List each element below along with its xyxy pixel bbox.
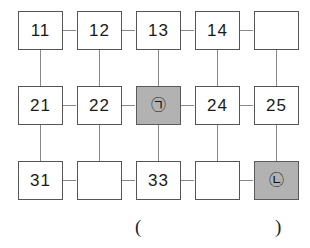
grid-cell-label: 12 xyxy=(89,22,110,39)
connector-r2-c4-c5 xyxy=(239,105,253,106)
grid-cell-r1c3[interactable]: 13 xyxy=(136,11,181,50)
circled-giyeok-icon: ㉠ xyxy=(151,98,166,113)
grid-cell-r3c1[interactable]: 31 xyxy=(18,161,63,200)
connector-c3-r1-r2 xyxy=(158,50,159,86)
grid-cell-r2c5[interactable]: 25 xyxy=(254,86,299,125)
connector-c2-r2-r3 xyxy=(99,125,100,161)
grid-cell-label: 13 xyxy=(148,22,169,39)
grid-cell-r3c5-marker-nieun[interactable]: ㉡ xyxy=(254,161,299,200)
connector-r1-c1-c2 xyxy=(62,30,76,31)
grid-cell-label: 11 xyxy=(31,22,51,39)
connector-r3-c1-c2 xyxy=(62,180,76,181)
circled-nieun-icon: ㉡ xyxy=(269,173,284,188)
grid-cell-r1c2[interactable]: 12 xyxy=(77,11,122,50)
grid-cell-r2c4[interactable]: 24 xyxy=(195,86,240,125)
connector-r1-c3-c4 xyxy=(180,30,194,31)
connector-c1-r2-r3 xyxy=(40,125,41,161)
connector-r1-c4-c5 xyxy=(239,30,253,31)
grid-cell-r1c4[interactable]: 14 xyxy=(195,11,240,50)
grid-cell-label: 33 xyxy=(148,172,169,189)
connector-r1-c2-c3 xyxy=(121,30,135,31)
connector-c4-r2-r3 xyxy=(217,125,218,161)
grid-cell-label: 24 xyxy=(207,97,228,114)
grid-cell-label: 25 xyxy=(266,97,287,114)
grid-cell-r3c3[interactable]: 33 xyxy=(136,161,181,200)
connector-c1-r1-r2 xyxy=(40,50,41,86)
grid-cell-r1c5[interactable] xyxy=(254,11,299,50)
grid-cell-r3c4[interactable] xyxy=(195,161,240,200)
connector-r3-c4-c5 xyxy=(239,180,253,181)
grid-diagram: 11 12 13 14 21 22 ㉠ 24 25 31 33 ㉡ ( ) xyxy=(0,0,310,248)
grid-cell-r3c2[interactable] xyxy=(77,161,122,200)
connector-r2-c3-c4 xyxy=(180,105,194,106)
caption-open-paren: ( xyxy=(135,217,141,236)
connector-c5-r1-r2 xyxy=(276,50,277,86)
grid-cell-r1c1[interactable]: 11 xyxy=(18,11,63,50)
connector-c3-r2-r3 xyxy=(158,125,159,161)
grid-cell-r2c2[interactable]: 22 xyxy=(77,86,122,125)
connector-c5-r2-r3 xyxy=(276,125,277,161)
grid-cell-r2c3-marker-giyeok[interactable]: ㉠ xyxy=(136,86,181,125)
caption-close-paren: ) xyxy=(275,217,281,236)
grid-cell-label: 21 xyxy=(30,97,51,114)
grid-cell-label: 14 xyxy=(207,22,228,39)
connector-r3-c2-c3 xyxy=(121,180,135,181)
connector-c2-r1-r2 xyxy=(99,50,100,86)
connector-r3-c3-c4 xyxy=(180,180,194,181)
grid-cell-label: 22 xyxy=(89,97,110,114)
connector-c4-r1-r2 xyxy=(217,50,218,86)
grid-cell-r2c1[interactable]: 21 xyxy=(18,86,63,125)
connector-r2-c2-c3 xyxy=(121,105,135,106)
grid-cell-label: 31 xyxy=(30,172,51,189)
connector-r2-c1-c2 xyxy=(62,105,76,106)
